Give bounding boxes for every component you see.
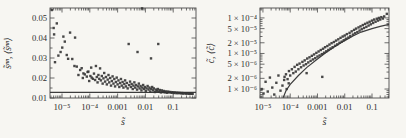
x-tick-label: 10⁻⁵ bbox=[54, 102, 71, 112]
avalanche-duration-points-marker bbox=[317, 50, 319, 52]
avalanche-duration-points-marker bbox=[293, 66, 295, 68]
avalanche-size-points-marker bbox=[117, 79, 119, 81]
avalanche-duration-points-marker bbox=[296, 64, 298, 66]
avalanche-duration-points-marker bbox=[271, 86, 273, 88]
avalanche-duration-points-marker bbox=[312, 58, 314, 60]
avalanche-duration-points-marker bbox=[264, 81, 266, 83]
avalanche-size-points-marker bbox=[141, 7, 143, 9]
avalanche-duration-points-marker bbox=[316, 55, 318, 57]
avalanche-duration-points-marker bbox=[333, 41, 335, 43]
y-tick-label: 5 × 10⁻⁶ bbox=[227, 59, 257, 69]
avalanche-size-points-marker bbox=[107, 78, 109, 80]
avalanche-duration-points-marker bbox=[349, 35, 351, 37]
y-tick-label: 2 × 10⁻⁶ bbox=[227, 73, 257, 83]
avalanche-duration-points-marker bbox=[352, 33, 354, 35]
avalanche-duration-points-marker bbox=[313, 53, 315, 55]
avalanche-duration-points-marker bbox=[346, 33, 348, 35]
avalanche-size-points-marker bbox=[136, 88, 138, 90]
avalanche-size-points-marker bbox=[119, 82, 121, 84]
plot-frame bbox=[50, 8, 196, 98]
avalanche-duration-points-marker bbox=[291, 68, 293, 70]
y-tick-label: 5 × 10⁻⁵ bbox=[227, 24, 257, 34]
avalanche-duration-points-marker bbox=[273, 93, 275, 95]
y-tick-label: 0.04 bbox=[32, 33, 48, 43]
avalanche-duration-points-marker bbox=[362, 24, 364, 26]
avalanche-size-points-marker bbox=[114, 85, 116, 87]
avalanche-duration-points-marker bbox=[361, 28, 363, 30]
avalanche-duration-points-marker bbox=[301, 61, 303, 63]
avalanche-size-points-marker bbox=[126, 82, 128, 84]
avalanche-duration-points-marker bbox=[262, 92, 264, 94]
x-tick-label: 0.01 bbox=[138, 102, 154, 112]
avalanche-size-points-marker bbox=[53, 33, 55, 35]
avalanche-duration-points-marker bbox=[321, 76, 323, 78]
avalanche-duration-points-marker bbox=[344, 34, 346, 36]
left-plot: 10⁻⁵10⁻⁴0.0010.010.10.010.020.030.040.05… bbox=[0, 0, 206, 138]
y-tick-label: 0.05 bbox=[32, 13, 47, 23]
avalanche-size-points-marker bbox=[51, 9, 53, 11]
avalanche-duration-points-marker bbox=[337, 38, 339, 40]
avalanche-duration-points-marker bbox=[324, 46, 326, 48]
avalanche-duration-points-marker bbox=[289, 74, 291, 76]
avalanche-size-points-marker bbox=[124, 79, 126, 81]
avalanche-duration-points-marker bbox=[260, 88, 262, 90]
avalanche-size-points-marker bbox=[80, 67, 82, 69]
avalanche-duration-points-marker bbox=[328, 43, 330, 45]
avalanche-size-points-marker bbox=[92, 78, 94, 80]
avalanche-size-points-marker bbox=[107, 74, 109, 76]
avalanche-size-points-marker bbox=[84, 73, 86, 75]
avalanche-duration-points-marker bbox=[323, 52, 325, 54]
avalanche-duration-points-marker bbox=[348, 32, 350, 34]
avalanche-duration-points-marker bbox=[382, 17, 384, 19]
y-tick-label: 1 × 10⁻⁶ bbox=[227, 84, 257, 94]
avalanche-size-points-marker bbox=[133, 81, 135, 83]
avalanche-duration-points-marker bbox=[339, 37, 341, 39]
avalanche-duration-points-marker bbox=[334, 45, 336, 47]
avalanche-duration-points-marker bbox=[367, 24, 369, 26]
avalanche-duration-points-marker bbox=[364, 23, 366, 25]
avalanche-duration-points-marker bbox=[285, 88, 287, 90]
avalanche-size-points-marker bbox=[59, 51, 61, 53]
avalanche-size-points-marker bbox=[97, 74, 99, 76]
avalanche-duration-points-marker bbox=[341, 35, 343, 37]
avalanche-size-points-marker bbox=[99, 67, 101, 69]
avalanche-size-points-marker bbox=[90, 66, 92, 68]
avalanche-duration-points-marker bbox=[343, 39, 345, 41]
avalanche-size-points-marker bbox=[96, 81, 98, 83]
avalanche-duration-points-marker bbox=[371, 19, 373, 21]
avalanche-duration-points-marker bbox=[297, 68, 299, 70]
avalanche-duration-points-marker bbox=[302, 64, 304, 66]
x-axis-label: s̃ bbox=[323, 116, 327, 127]
avalanche-duration-points-marker bbox=[354, 32, 356, 34]
avalanche-duration-points-marker bbox=[318, 54, 320, 56]
avalanche-size-points-marker bbox=[116, 76, 118, 78]
avalanche-size-points-marker bbox=[157, 43, 159, 45]
avalanche-duration-points-marker bbox=[370, 23, 372, 25]
scatter-figure: 10⁻⁵10⁻⁴0.0010.010.10.010.020.030.040.05… bbox=[0, 0, 406, 138]
avalanche-duration-points-marker bbox=[329, 47, 331, 49]
avalanche-duration-points-marker bbox=[359, 25, 361, 27]
avalanche-duration-points-marker bbox=[379, 18, 381, 20]
avalanche-duration-points-marker bbox=[300, 66, 302, 68]
avalanche-size-points-marker bbox=[56, 22, 58, 24]
avalanche-size-points-marker bbox=[108, 81, 110, 83]
avalanche-duration-points-marker bbox=[372, 22, 374, 24]
avalanche-duration-points-marker bbox=[336, 43, 338, 45]
avalanche-size-points-marker bbox=[145, 90, 147, 92]
avalanche-duration-points-marker bbox=[286, 78, 288, 80]
y-tick-label: 0.01 bbox=[32, 93, 47, 103]
avalanche-size-points-marker bbox=[71, 58, 73, 60]
avalanche-duration-points-marker bbox=[307, 61, 309, 63]
avalanche-size-points-marker bbox=[111, 75, 113, 77]
avalanche-size-points-marker bbox=[109, 77, 111, 79]
avalanche-duration-points-marker bbox=[321, 53, 323, 55]
avalanche-size-points-marker bbox=[94, 79, 96, 81]
avalanche-size-points-marker bbox=[150, 57, 152, 59]
avalanche-duration-points-marker bbox=[383, 15, 385, 17]
avalanche-size-points-marker bbox=[140, 89, 142, 91]
x-axis-label: s̃ bbox=[121, 116, 125, 127]
x-tick-label: 0.1 bbox=[366, 102, 377, 112]
avalanche-size-points-marker bbox=[77, 74, 79, 76]
avalanche-size-points-marker bbox=[88, 80, 90, 82]
avalanche-size-points-marker bbox=[106, 83, 108, 85]
